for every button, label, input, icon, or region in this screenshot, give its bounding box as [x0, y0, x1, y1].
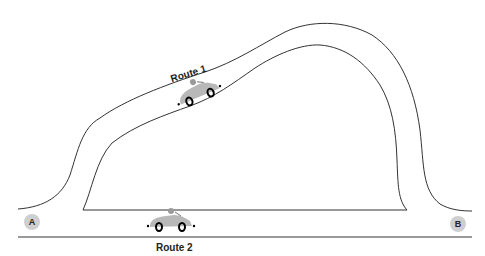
route-2-label: Route 2	[156, 242, 193, 253]
point-b: B	[450, 216, 466, 232]
route-1-outer-edge	[18, 23, 472, 211]
route-1-inner-edge	[83, 45, 407, 210]
route-diagram	[0, 0, 485, 256]
point-a: A	[24, 214, 40, 230]
car-route-2	[147, 208, 195, 231]
